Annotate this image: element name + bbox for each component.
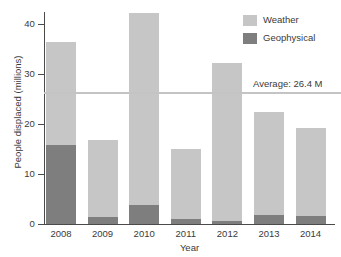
bar-segment-geophysical[interactable]	[88, 217, 118, 224]
chart-legend: WeatherGeophysical	[243, 12, 339, 48]
bar-segment-weather[interactable]	[296, 128, 326, 216]
bar-segment-weather[interactable]	[254, 112, 284, 215]
x-axis-tick-label: 2014	[289, 228, 333, 239]
x-axis-tick-label: 2012	[205, 228, 249, 239]
bar-segment-geophysical[interactable]	[171, 219, 201, 225]
stacked-bar-chart: 010203040 People displaced (millions) Av…	[0, 0, 341, 257]
bar-segment-geophysical[interactable]	[212, 221, 242, 224]
bar-group[interactable]	[129, 10, 159, 224]
x-axis-tick-label: 2010	[122, 228, 166, 239]
x-axis-tick-label: 2008	[39, 228, 83, 239]
bar-segment-geophysical[interactable]	[46, 145, 76, 224]
legend-label: Geophysical	[263, 33, 315, 43]
average-reference-label: Average: 26.4 M	[253, 79, 323, 89]
bar-segment-geophysical[interactable]	[296, 216, 326, 224]
legend-label: Weather	[263, 15, 299, 25]
x-axis-tick-label: 2013	[247, 228, 291, 239]
x-axis-tick-label: 2009	[81, 228, 125, 239]
x-axis-tick-labels: 2008200920102011201220132014	[44, 228, 335, 242]
average-reference-line	[44, 92, 341, 94]
y-axis-tick-mark	[38, 224, 44, 225]
bar-segment-weather[interactable]	[88, 140, 118, 217]
legend-item[interactable]: Weather	[243, 12, 339, 28]
x-axis-tick-label: 2011	[164, 228, 208, 239]
bar-group[interactable]	[171, 10, 201, 224]
bar-segment-weather[interactable]	[171, 149, 201, 219]
legend-item[interactable]: Geophysical	[243, 30, 339, 46]
bar-segment-weather[interactable]	[129, 13, 159, 205]
y-axis-tick-label: 40	[15, 19, 35, 29]
legend-swatch-icon	[243, 15, 257, 26]
bar-segment-weather[interactable]	[212, 63, 242, 221]
bar-group[interactable]	[212, 10, 242, 224]
bar-segment-geophysical[interactable]	[129, 205, 159, 225]
bar-group[interactable]	[88, 10, 118, 224]
y-axis-tick-label: 0	[15, 219, 35, 229]
y-axis-title: People displaced (millions)	[13, 37, 23, 187]
bar-segment-geophysical[interactable]	[254, 215, 284, 225]
x-axis-title: Year	[44, 243, 335, 253]
legend-swatch-icon	[243, 33, 257, 44]
bar-group[interactable]	[46, 10, 76, 224]
